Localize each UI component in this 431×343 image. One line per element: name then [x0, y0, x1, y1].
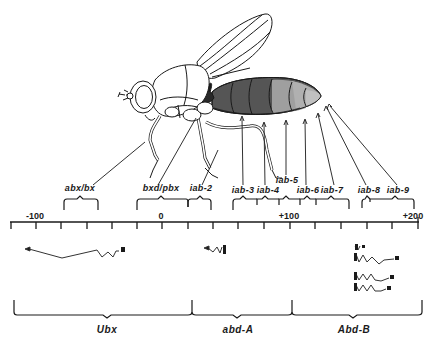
region-label-iab-4: iab-4 — [257, 185, 280, 195]
region-label-iab-6: iab-6 — [297, 185, 320, 195]
fly-illustration — [118, 14, 321, 178]
bithorax-complex-diagram — [0, 0, 431, 343]
abd-a-brace — [192, 300, 292, 318]
region-label-iab-9: iab-9 — [387, 185, 410, 195]
axis-label-plus-100: +100 — [279, 211, 299, 221]
gene-label-abd-b: Abd-B — [338, 324, 371, 335]
region-label-iab-3: iab-3 — [232, 185, 255, 195]
transcripts — [25, 244, 399, 291]
ubx-transcript — [25, 247, 125, 258]
fly-wing — [197, 14, 272, 79]
gene-label-abd-a: abd-A — [223, 324, 254, 335]
abd-b-transcripts — [354, 244, 399, 291]
region-label-iab-2: iab-2 — [190, 183, 213, 193]
fly-abdomen — [198, 78, 321, 115]
axis-label-zero: 0 — [158, 211, 163, 221]
abd-a-transcript — [204, 245, 226, 254]
region-label-bxd-pbx: bxd/pbx — [143, 183, 180, 193]
region-label-iab-5: iab-5 — [276, 175, 299, 185]
gene-braces — [14, 300, 422, 318]
kilobase-axis — [10, 217, 419, 229]
region-label-iab-8: iab-8 — [358, 185, 381, 195]
region-brackets — [64, 196, 414, 210]
region-label-abx-bx: abx/bx — [65, 183, 95, 193]
abd-b-brace — [292, 300, 422, 318]
axis-label-minus-100: -100 — [26, 211, 44, 221]
region-label-iab-7: iab-7 — [321, 185, 344, 195]
axis-label-plus-200: +200 — [403, 211, 423, 221]
pointer-lines — [93, 104, 397, 185]
ubx-brace — [14, 300, 192, 318]
gene-label-ubx: Ubx — [97, 324, 117, 335]
